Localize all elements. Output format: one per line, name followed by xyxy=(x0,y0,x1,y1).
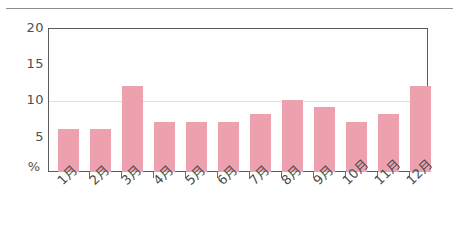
y-tick-label-20: 20 xyxy=(4,21,44,34)
bars-container xyxy=(48,28,428,172)
y-tick-label-10: 10 xyxy=(4,93,44,106)
x-axis-labels: 1月 2月 3月 4月 5月 6月 7月 8月 9月 10月 11月 12月 xyxy=(48,178,428,230)
y-tick-label-5: 5 xyxy=(4,130,44,143)
bar-3[interactable] xyxy=(122,86,143,172)
bar-chart-figure: 20 15 10 5 % xyxy=(0,0,459,230)
y-axis: 20 15 10 5 % xyxy=(0,0,44,230)
y-axis-unit-label: % xyxy=(28,160,40,173)
header-divider xyxy=(6,8,453,9)
y-tick-label-15: 15 xyxy=(4,57,44,70)
